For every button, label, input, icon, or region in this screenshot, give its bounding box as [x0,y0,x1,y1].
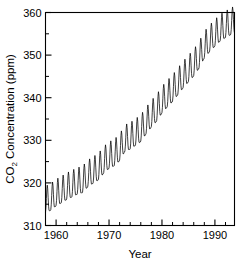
y-axis-title: CO2 Concentration (ppm) [4,54,19,184]
y-tick-label: 350 [23,49,41,61]
x-tick-label: 1990 [203,229,227,241]
co2-concentration-line-chart: 1960197019801990 310320330340350360 Year… [0,0,246,263]
y-tick-label: 340 [23,92,41,104]
x-tick-label: 1960 [44,229,68,241]
x-axis-title: Year [128,248,151,260]
y-tick-label: 320 [23,177,41,189]
y-tick-label: 330 [23,134,41,146]
chart-figure: 1960197019801990 310320330340350360 Year… [0,0,246,263]
x-tick-label: 1970 [97,229,121,241]
co2-data-series [46,7,235,212]
x-tick-label: 1980 [150,229,174,241]
y-tick-label: 360 [23,7,41,19]
y-axis-tick-labels: 310320330340350360 [23,7,41,232]
x-axis-ticks [46,220,226,226]
y-axis-title-suffix: Concentration (ppm) [4,54,16,162]
y-axis-title-prefix: CO [4,167,16,184]
x-axis-tick-labels: 1960197019801990 [44,229,227,241]
y-tick-label: 310 [23,220,41,232]
plot-frame [46,13,235,226]
